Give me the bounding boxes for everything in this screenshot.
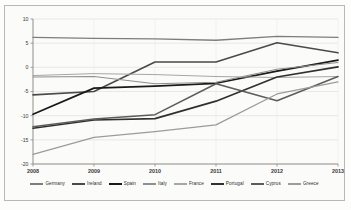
legend-swatch-icon	[288, 183, 301, 184]
series-line-italy	[33, 63, 338, 84]
y-tick-labels: 1050-5-10-15-20	[21, 16, 29, 167]
y-tick-label: -15	[21, 137, 29, 143]
y-tick-label: -5	[24, 88, 29, 94]
x-axis	[33, 164, 338, 167]
y-tick-label: -20	[21, 161, 29, 167]
legend-item-label: Greece	[303, 181, 319, 187]
legend-item-label: Spain	[124, 181, 136, 187]
x-tick-label: 2012	[271, 168, 283, 174]
legend-item-label: Italy	[158, 181, 167, 187]
legend-item-label: France	[189, 181, 204, 187]
legend-item-portugal[interactable]: Portugal	[211, 181, 244, 187]
legend-item-france[interactable]: France	[174, 181, 204, 187]
legend-swatch-icon	[109, 183, 122, 185]
chart-legend: GermanyIrelandSpainItalyFrancePortugalCy…	[4, 181, 345, 187]
series-line-spain	[33, 60, 338, 114]
legend-swatch-icon	[174, 183, 187, 184]
legend-swatch-icon	[72, 183, 85, 185]
x-tick-label: 2011	[210, 168, 222, 174]
x-tick-label: 2009	[88, 168, 100, 174]
legend-item-spain[interactable]: Spain	[109, 181, 136, 187]
y-tick-label: 10	[23, 16, 29, 22]
series-line-germany	[33, 36, 338, 40]
series-line-portugal	[33, 67, 338, 128]
data-series-lines	[33, 36, 338, 154]
line-chart: 1050-5-10-15-20 200820092010201120122013…	[0, 0, 351, 210]
legend-item-label: Cyprus	[266, 181, 281, 187]
legend-swatch-icon	[211, 183, 224, 185]
legend-swatch-icon	[30, 183, 43, 184]
y-axis	[31, 19, 34, 164]
y-tick-label: 5	[26, 40, 29, 46]
legend-item-label: Ireland	[87, 181, 102, 187]
x-tick-label: 2013	[332, 168, 344, 174]
legend-item-greece[interactable]: Greece	[288, 181, 319, 187]
x-tick-labels: 200820092010201120122013	[27, 168, 344, 174]
x-tick-label: 2008	[27, 168, 39, 174]
y-tick-label: -10	[21, 113, 29, 119]
legend-item-ireland[interactable]: Ireland	[72, 181, 102, 187]
chart-plot-area: 1050-5-10-15-20 200820092010201120122013	[0, 0, 351, 210]
legend-swatch-icon	[251, 183, 264, 185]
legend-item-label: Germany	[45, 181, 65, 187]
legend-item-cyprus[interactable]: Cyprus	[251, 181, 281, 187]
x-tick-label: 2010	[149, 168, 161, 174]
legend-item-label: Portugal	[226, 181, 244, 187]
y-tick-label: 0	[26, 64, 29, 70]
legend-item-italy[interactable]: Italy	[143, 181, 167, 187]
legend-item-germany[interactable]: Germany	[30, 181, 65, 187]
legend-swatch-icon	[143, 183, 156, 184]
